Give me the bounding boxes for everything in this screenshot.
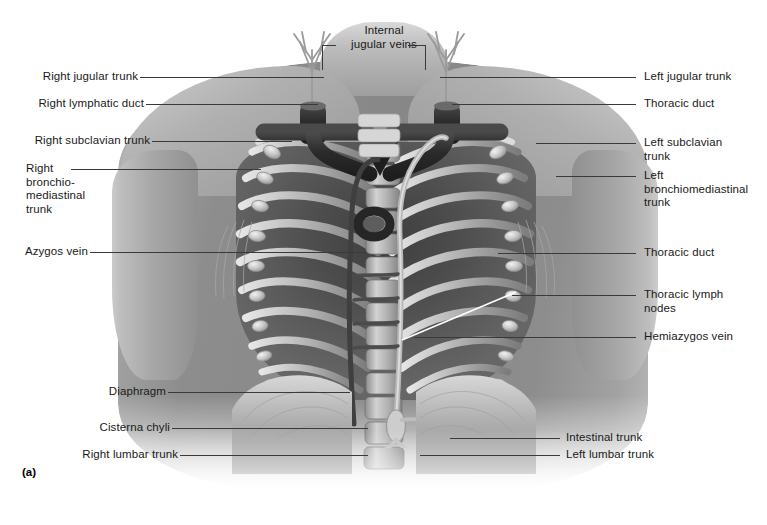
leader-internal-jugular-left-v: [322, 45, 323, 70]
figure-marker: (a): [22, 466, 36, 478]
thoracic-duct-lower-label: Thoracic duct: [644, 246, 764, 260]
right-lumbar-trunk-label: Right lumbar trunk: [40, 448, 178, 462]
leader-cisterna-chyli: [172, 428, 368, 429]
intestinal-trunk-label: Intestinal trunk: [566, 431, 686, 445]
left-bronchomediastinal-trunk-label: Left bronchiomediastinal trunk: [644, 169, 766, 210]
right-lymphatic-duct-label: Right lymphatic duct: [4, 97, 144, 111]
leader-internal-jugular-left: [322, 45, 336, 46]
figure-canvas: Internal jugular veins Right jugular tru…: [0, 0, 767, 525]
leader-thoracic-duct-lower: [498, 253, 636, 254]
leader-left-lumbar-trunk: [420, 455, 560, 456]
right-subclavian-trunk-label: Right subclavian trunk: [4, 134, 150, 148]
thoracic-lymph-nodes-label: Thoracic lymph nodes: [644, 288, 762, 315]
left-subclavian-trunk-label: Left subclavian trunk: [644, 136, 764, 163]
right-bronchomediastinal-trunk-label: Right bronchio- mediastinal trunk: [26, 162, 116, 216]
leader-right-lumbar-trunk: [180, 455, 368, 456]
left-jugular-trunk-label: Left jugular trunk: [644, 70, 764, 84]
right-jugular-trunk-label: Right jugular trunk: [4, 70, 138, 84]
internal-jugular-veins-label: Internal jugular veins: [336, 24, 432, 51]
leader-right-jugular-trunk: [140, 77, 324, 78]
leader-thoracic-duct-upper: [452, 104, 636, 105]
leader-left-subclavian-trunk: [536, 143, 636, 144]
diaphragm-label: Diaphragm: [40, 385, 166, 399]
azygos-vein-label: Azygos vein: [4, 245, 88, 259]
leader-left-bronchomediastinal-trunk: [556, 176, 636, 177]
cisterna-chyli-label: Cisterna chyli: [40, 421, 170, 435]
leader-azygos-vein: [90, 252, 365, 253]
diaphragm: [228, 362, 540, 482]
leader-hemiazygos-diagonal: [400, 290, 520, 342]
leader-diaphragm: [168, 392, 350, 393]
leader-right-subclavian-trunk: [152, 141, 292, 142]
leader-thoracic-lymph-nodes: [512, 295, 636, 296]
hemiazygos-vein-label: Hemiazygos vein: [644, 330, 766, 344]
leader-intestinal-trunk: [450, 438, 560, 439]
left-lumbar-trunk-label: Left lumbar trunk: [566, 448, 692, 462]
left-arm: [112, 150, 198, 380]
leader-right-lymphatic-duct: [146, 104, 318, 105]
thoracic-duct-upper-label: Thoracic duct: [644, 97, 764, 111]
leader-left-jugular-trunk: [440, 77, 636, 78]
